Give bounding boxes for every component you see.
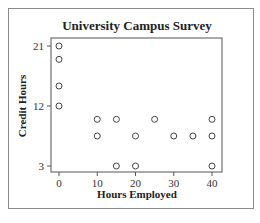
data-point: [209, 163, 215, 169]
y-axis-label: Credit Hours: [16, 74, 28, 137]
data-point: [113, 116, 119, 122]
data-points: [56, 43, 215, 169]
data-point: [56, 103, 62, 109]
data-point: [56, 56, 62, 62]
x-tick-label: 40: [207, 177, 219, 189]
data-point: [94, 133, 100, 139]
data-point: [152, 116, 158, 122]
data-point: [56, 43, 62, 49]
x-axis-ticks: 010203040: [56, 172, 218, 189]
data-point: [113, 163, 119, 169]
data-point: [56, 83, 62, 89]
y-tick-label: 12: [33, 100, 44, 112]
data-point: [209, 133, 215, 139]
y-axis-ticks: 31221: [33, 40, 51, 172]
data-point: [133, 163, 139, 169]
data-point: [190, 133, 196, 139]
data-point: [133, 133, 139, 139]
y-tick-label: 3: [39, 160, 45, 172]
data-point: [94, 116, 100, 122]
data-point: [171, 133, 177, 139]
scatter-chart: University Campus Survey 31221 010203040…: [0, 0, 260, 223]
data-point: [209, 116, 215, 122]
y-tick-label: 21: [33, 40, 44, 52]
x-tick-label: 0: [56, 177, 62, 189]
x-axis-label: Hours Employed: [97, 188, 177, 200]
plot-area: [51, 38, 222, 172]
chart-title: University Campus Survey: [62, 18, 212, 33]
